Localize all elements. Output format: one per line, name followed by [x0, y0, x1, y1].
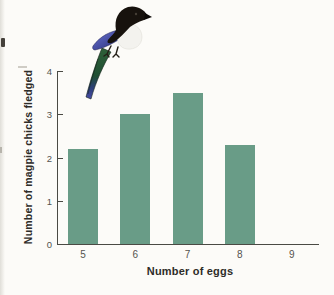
- y-tick: [58, 71, 63, 72]
- y-tick-label: 4: [36, 66, 52, 77]
- bar-eggs-7: [173, 93, 203, 244]
- x-tick-label: 7: [178, 249, 198, 260]
- x-tick-label: 8: [230, 249, 250, 260]
- x-tick-label: 6: [125, 249, 145, 260]
- x-tick-label: 5: [73, 249, 93, 260]
- x-axis-line: [57, 244, 319, 245]
- y-tick-label: 1: [36, 196, 52, 207]
- y-tick-label: 3: [36, 109, 52, 120]
- figure-root: 0123456789 Number of magpie chicks fledg…: [0, 0, 334, 295]
- bar-eggs-5: [68, 149, 98, 244]
- bar-chart: 0123456789: [0, 0, 334, 295]
- y-axis-title: Number of magpie chicks fledged: [22, 66, 36, 248]
- x-axis-title: Number of eggs: [110, 265, 270, 277]
- x-tick-label: 9: [282, 249, 302, 260]
- y-tick-label: 0: [36, 239, 52, 250]
- y-tick: [58, 244, 63, 245]
- y-tick-label: 2: [36, 153, 52, 164]
- bar-eggs-6: [120, 114, 150, 244]
- y-tick: [58, 114, 63, 115]
- y-tick: [58, 201, 63, 202]
- bar-eggs-8: [225, 145, 255, 244]
- y-tick: [58, 158, 63, 159]
